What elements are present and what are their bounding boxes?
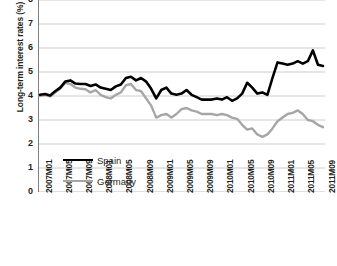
y-tick-label: 4 — [16, 91, 33, 100]
data-series-group — [40, 50, 323, 136]
x-tick-label: 2009M09 — [205, 133, 215, 193]
x-tick-label: 2010M01 — [225, 133, 235, 193]
x-tick-label: 2011M09 — [327, 133, 337, 193]
legend-label-germany: Germany — [97, 176, 136, 187]
y-tick-label: 1 — [16, 163, 33, 172]
y-tick-label: 7 — [16, 19, 33, 28]
x-axis-tick-labels: 2007M012007M052007M092008M012008M052008M… — [38, 193, 325, 266]
series-line-germany — [40, 83, 323, 137]
y-tick-label: 2 — [16, 139, 33, 148]
y-axis-tick-labels: 012345678 — [16, 0, 33, 266]
y-tick-label: 6 — [16, 43, 33, 52]
y-tick-label: 8 — [16, 0, 33, 4]
y-tick-label: 3 — [16, 115, 33, 124]
x-tick-label: 2010M05 — [246, 133, 256, 193]
y-tick-label: 0 — [16, 187, 33, 196]
legend-item-germany: Germany — [63, 173, 136, 189]
x-tick-label: 2011M05 — [306, 133, 316, 193]
x-tick-label: 2009M05 — [185, 133, 195, 193]
series-line-spain — [40, 50, 323, 100]
legend-item-spain: Spain — [63, 152, 121, 168]
legend-swatch-germany — [63, 180, 93, 182]
legend-swatch-spain — [63, 159, 93, 162]
x-tick-label: 2010M09 — [266, 133, 276, 193]
legend-label-spain: Spain — [97, 155, 121, 166]
chart-legend: Spain Germany — [63, 152, 179, 192]
axis-lines — [38, 0, 39, 192]
x-tick-label: 2007M01 — [44, 133, 54, 193]
y-tick-label: 5 — [16, 67, 33, 76]
x-tick-label: 2011M01 — [286, 133, 296, 193]
